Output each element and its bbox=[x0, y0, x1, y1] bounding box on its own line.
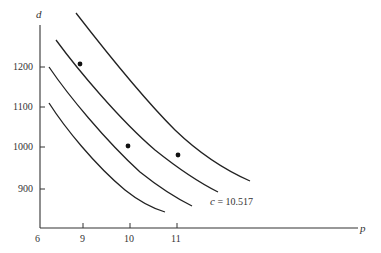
data-point bbox=[126, 144, 131, 149]
y-tick-label: 1000 bbox=[13, 141, 33, 152]
x-ticks: 6 9 10 11 bbox=[35, 223, 181, 244]
y-axis-label: d bbox=[36, 8, 42, 20]
level-curve-chart: d p 1200 1100 1000 900 6 9 10 11 c = 10.… bbox=[0, 0, 381, 253]
x-tick-label: 6 bbox=[35, 233, 40, 244]
y-tick-label: 900 bbox=[18, 183, 33, 194]
y-tick-label: 1100 bbox=[13, 101, 33, 112]
x-tick-label: 10 bbox=[124, 233, 134, 244]
level-curve-3 bbox=[49, 67, 192, 206]
curve-annotation: c = 10.517 bbox=[210, 195, 253, 207]
data-point bbox=[176, 153, 181, 158]
x-tick-label: 9 bbox=[80, 233, 85, 244]
x-axis-label: p bbox=[359, 222, 366, 234]
data-point bbox=[78, 62, 83, 67]
x-tick-label: 11 bbox=[171, 233, 181, 244]
level-curve-inner bbox=[49, 103, 165, 212]
y-tick-label: 1200 bbox=[13, 61, 33, 72]
